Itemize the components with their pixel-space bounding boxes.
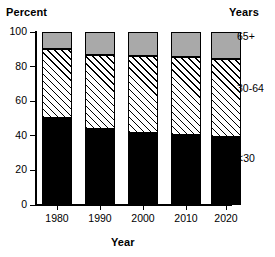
- bar-segment: [42, 49, 72, 118]
- y-tick-label: 80: [15, 61, 27, 71]
- legend-item-65-: 65+: [237, 30, 255, 42]
- bar-segment: [211, 59, 241, 137]
- bar-segment: [42, 118, 72, 205]
- legend-item-30-64: 30-64: [237, 82, 264, 94]
- bar-segment: [171, 57, 201, 135]
- x-tick-mark: [100, 206, 101, 210]
- bar-segment: [128, 133, 158, 205]
- stacked-bar-chart: Percent Years Year 020406080100 19801990…: [0, 0, 275, 257]
- y-tick-label: 100: [9, 26, 27, 36]
- y-axis-title: Percent: [6, 6, 47, 18]
- bar-segment: [128, 56, 158, 133]
- legend-title: Years: [229, 6, 259, 18]
- x-tick-mark: [226, 206, 227, 210]
- bar-segment: [171, 135, 201, 205]
- bar-segment: [85, 129, 115, 205]
- x-tick-label: 2010: [166, 212, 206, 224]
- y-tick-label: 20: [15, 164, 27, 174]
- y-tick-label: 40: [15, 130, 27, 140]
- x-tick-label: 1990: [80, 212, 120, 224]
- bar-segment: [85, 55, 115, 129]
- x-tick-mark: [143, 206, 144, 210]
- x-tick-label: 1980: [37, 212, 77, 224]
- plot-area: [35, 32, 232, 205]
- legend-item--30: <30: [237, 152, 255, 164]
- x-tick-label: 2020: [206, 212, 246, 224]
- y-tick-label: 60: [15, 95, 27, 105]
- bar-segment: [42, 32, 72, 49]
- bar-segment: [128, 32, 158, 56]
- x-tick-mark: [57, 206, 58, 210]
- x-tick-mark: [186, 206, 187, 210]
- bar-segment: [211, 137, 241, 205]
- bar-segment: [85, 32, 115, 55]
- x-axis-title: Year: [111, 236, 135, 248]
- y-tick-label: 0: [21, 199, 27, 209]
- x-tick-label: 2000: [123, 212, 163, 224]
- bar-segment: [171, 32, 201, 57]
